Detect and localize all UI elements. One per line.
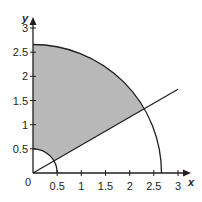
y-axis-arrow-icon (30, 17, 37, 25)
x-tick-label: 2 (127, 180, 133, 192)
origin-label: 0 (25, 176, 31, 188)
x-tick-label: 1 (78, 180, 84, 192)
y-tick-label: 2 (22, 70, 28, 82)
x-tick-label: 3 (175, 180, 181, 192)
y-tick-label: 1 (22, 119, 28, 131)
x-tick-label: 1.5 (98, 180, 113, 192)
x-tick-label: 2.5 (146, 180, 161, 192)
x-tick-label: 0.5 (50, 180, 65, 192)
polar-region-figure: 0.5 1 1.5 2 2.5 3 0.5 1 1.5 2 2.5 3 0 x … (0, 0, 202, 202)
y-tick-label: 2.5 (13, 46, 28, 58)
y-tick-label: 0.5 (13, 143, 28, 155)
x-axis-label: x (187, 176, 195, 188)
shaded-region (33, 44, 144, 173)
y-axis-label: y (21, 12, 29, 24)
diagram-canvas: 0.5 1 1.5 2 2.5 3 0.5 1 1.5 2 2.5 3 0 x … (0, 0, 202, 202)
y-tick-label: 1.5 (13, 95, 28, 107)
